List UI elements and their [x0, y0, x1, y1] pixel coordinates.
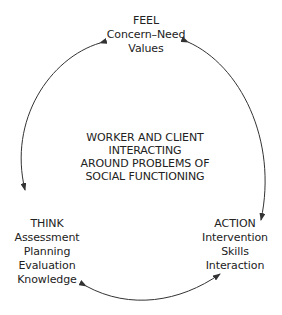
node-action-line: Interaction [190, 259, 280, 273]
node-think-line: Knowledge [12, 273, 82, 287]
node-action: ACTION Intervention Skills Interaction [190, 217, 280, 273]
node-action-line: Intervention [190, 231, 280, 245]
center-line: WORKER AND CLIENT [60, 131, 230, 144]
center-line: SOCIAL FUNCTIONING [60, 170, 230, 183]
node-think-line: Assessment [12, 231, 82, 245]
node-action-line: Skills [190, 245, 280, 259]
node-action-title: ACTION [190, 217, 280, 231]
center-line: INTERACTING [60, 144, 230, 157]
center-line: AROUND PROBLEMS OF [60, 157, 230, 170]
node-think: THINK Assessment Planning Evaluation Kno… [12, 217, 82, 287]
node-feel-title: FEEL [90, 14, 202, 28]
node-think-line: Planning [12, 245, 82, 259]
node-think-title: THINK [12, 217, 82, 231]
node-feel-line: Values [90, 42, 202, 56]
center-caption: WORKER AND CLIENT INTERACTING AROUND PRO… [60, 131, 230, 183]
node-feel-line: Concern–Need [90, 28, 202, 42]
arc-think-action [86, 274, 220, 300]
node-feel: FEEL Concern–Need Values [90, 14, 202, 56]
node-think-line: Evaluation [12, 259, 82, 273]
